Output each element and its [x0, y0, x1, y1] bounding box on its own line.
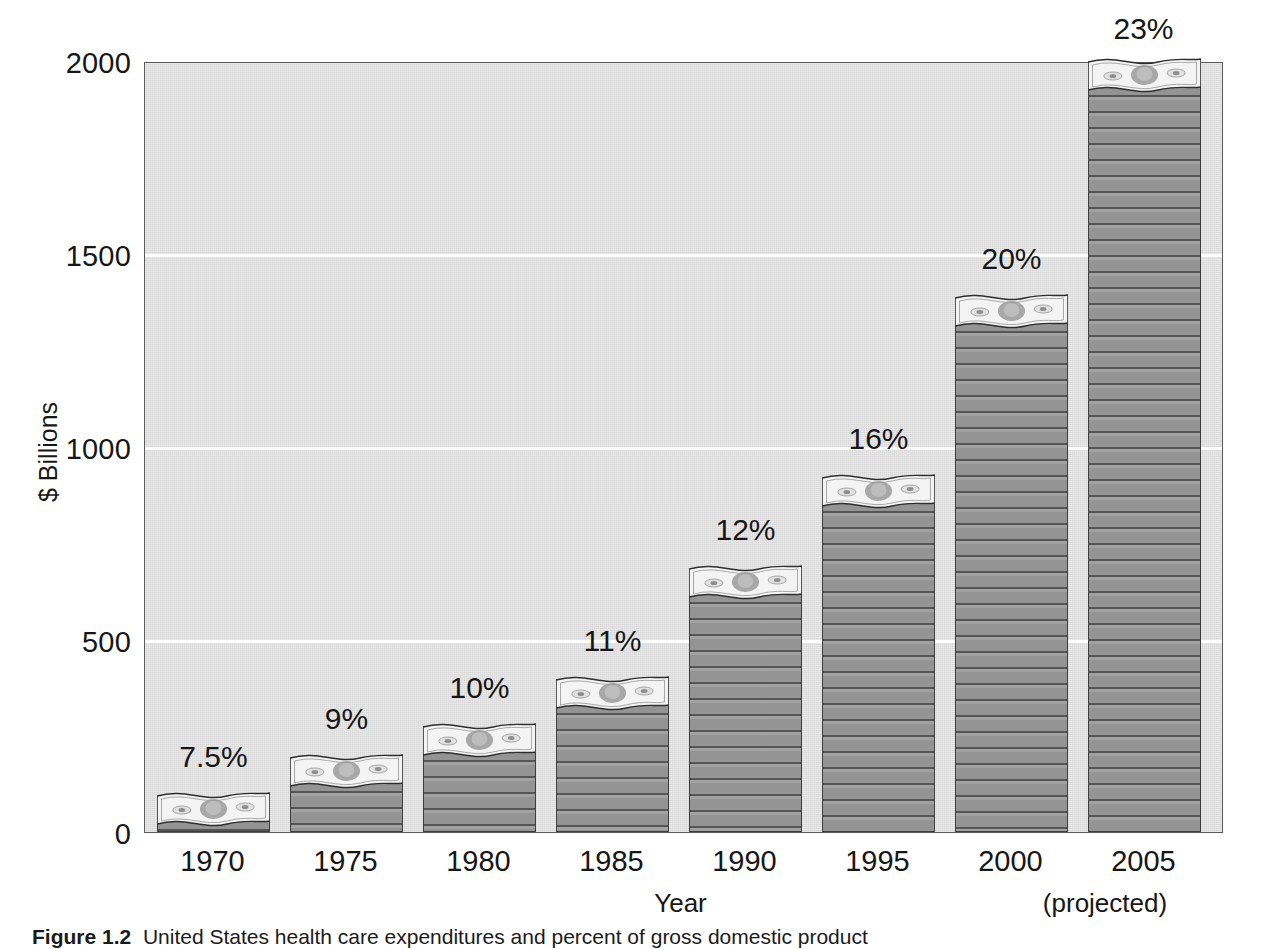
bar-1975[interactable] [290, 749, 403, 832]
x-tick-label-1980: 1980 [418, 845, 539, 878]
bar-1990[interactable] [689, 560, 802, 832]
figure-caption-text: United States health care expenditures a… [143, 925, 868, 948]
x-tick-label-2000: 2000 [950, 845, 1071, 878]
bar-ripple-highlight [956, 315, 1067, 831]
bar-2000-body [955, 315, 1068, 832]
dollar-bill-icon [423, 718, 536, 762]
dollar-bill-icon [1088, 53, 1201, 97]
x-tick-label-1985: 1985 [551, 845, 672, 878]
y-tick-label-500: 500 [0, 626, 131, 659]
figure-caption-label: Figure 1.2 [32, 925, 131, 948]
y-tick-label-2000: 2000 [0, 47, 131, 80]
plot-area: 7.5% 9% [144, 62, 1223, 833]
figure-caption: Figure 1.2 United States health care exp… [32, 925, 1252, 949]
projected-note: (projected) [1010, 888, 1200, 919]
bar-ripple-highlight [557, 697, 668, 831]
bar-label-1985: 11% [552, 624, 673, 658]
bar-label-1975: 9% [286, 702, 407, 736]
bar-ripple-highlight [1089, 79, 1200, 831]
dollar-bill-icon [290, 749, 403, 793]
y-tick-label-0: 0 [0, 818, 131, 851]
bar-2005[interactable] [1088, 53, 1201, 832]
x-tick-label-1975: 1975 [285, 845, 406, 878]
y-tick-label-1000: 1000 [0, 433, 131, 466]
dollar-bill-icon [157, 787, 270, 831]
dollar-bill-icon [689, 560, 802, 604]
dollar-bill-icon [822, 469, 935, 513]
bar-1985[interactable] [556, 671, 669, 832]
bar-2005-body [1088, 79, 1201, 832]
bar-1995[interactable] [822, 469, 935, 832]
bar-label-2000: 20% [951, 242, 1072, 276]
bar-label-1995: 16% [818, 422, 939, 456]
bar-ripple-highlight [690, 586, 801, 831]
x-tick-label-1970: 1970 [152, 845, 273, 878]
x-tick-label-1995: 1995 [817, 845, 938, 878]
y-tick-label-1500: 1500 [0, 240, 131, 273]
bar-label-1980: 10% [419, 671, 540, 705]
bar-label-1990: 12% [685, 513, 806, 547]
bar-1980[interactable] [423, 718, 536, 832]
dollar-bill-icon [955, 289, 1068, 333]
x-tick-label-1990: 1990 [684, 845, 805, 878]
x-axis-title: Year [620, 888, 741, 919]
bar-1995-body [822, 495, 935, 832]
bar-ripple-highlight [823, 495, 934, 831]
bar-1990-body [689, 586, 802, 832]
y-axis-title: $ Billions [34, 402, 63, 502]
x-tick-label-2005: 2005 [1083, 845, 1204, 878]
bar-label-2005: 23% [1083, 12, 1204, 46]
dollar-bill-icon [556, 671, 669, 715]
bar-label-1970: 7.5% [153, 740, 274, 774]
bar-1985-body [556, 697, 669, 832]
bar-1970[interactable] [157, 787, 270, 832]
bar-2000[interactable] [955, 289, 1068, 832]
